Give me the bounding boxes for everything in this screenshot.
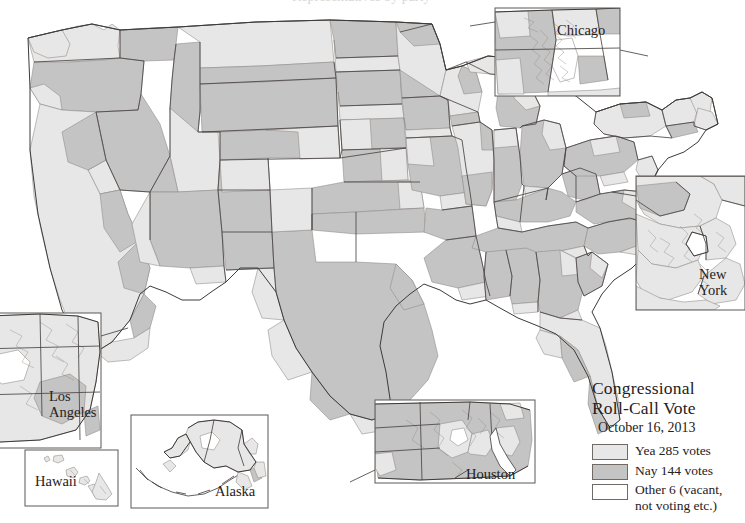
legend-swatch-other [592,484,628,500]
inset-hawaii [25,450,118,506]
legend-swatch-yea [592,444,628,460]
legend-swatch-nay [592,464,628,480]
inset-chicago [470,8,648,96]
legend-entries: Yea 285 votes Nay 144 votes Other 6 (vac… [592,442,742,514]
congressional-rollcall-map-figure: Representatives by party .yea { fill: #e… [0,0,745,523]
legend-title-line-1: Congressional [592,378,742,398]
legend-title-line-2: Roll-Call Vote [592,398,742,418]
legend-label-nay: Nay 144 votes [635,462,713,479]
inset-houston [350,400,535,483]
legend-label-other-line1: Other 6 (vacant, [635,482,722,498]
legend-label-other: Other 6 (vacant, not voting etc.) [635,482,722,514]
map-legend: Congressional Roll-Call Vote October 16,… [592,378,742,516]
legend-row-other: Other 6 (vacant, not voting etc.) [592,482,742,514]
legend-row-nay: Nay 144 votes [592,462,742,480]
legend-label-yea: Yea 285 votes [635,442,711,459]
legend-subtitle-date: October 16, 2013 [598,419,742,437]
inset-alaska [131,415,268,508]
legend-row-yea: Yea 285 votes [592,442,742,460]
legend-label-other-line2: not voting etc.) [635,498,722,514]
